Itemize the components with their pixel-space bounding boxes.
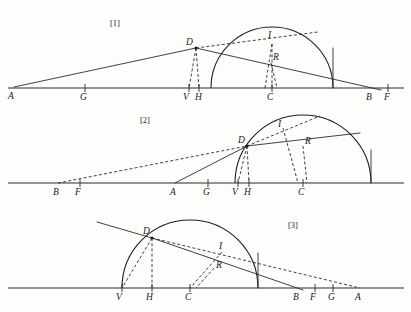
- figure-3-label-C: C: [185, 292, 192, 302]
- figure-1-normal-D-to-V: [189, 48, 196, 88]
- figure-1: AGVHCBFDIR[1]: [7, 18, 404, 102]
- figure-3-label-F: F: [309, 292, 316, 302]
- figure-2-label-I: I: [277, 119, 282, 129]
- figure-3-caption: [3]: [288, 220, 298, 230]
- figure-2-label-F: F: [74, 187, 81, 197]
- figure-3-label-R: R: [215, 260, 222, 270]
- figure-3-label-A: A: [354, 292, 361, 302]
- figure-2: BFAGVHCDIR[2]: [8, 115, 404, 197]
- figure-1-label-R: R: [272, 52, 279, 62]
- figure-1-perp-D-to-H: [196, 48, 199, 88]
- figure-3-refracted-ray-D-B: [152, 238, 303, 290]
- geometry-diagram-canvas: AGVHCBFDIR[1]BFAGVHCDIR[2]VHCBFGADIR[3]: [0, 0, 411, 312]
- figure-2-perp-D-to-H: [247, 146, 249, 183]
- figure-1-label-A: A: [7, 91, 14, 101]
- figure-1-point-D: [194, 46, 197, 49]
- figure-1-label-H: H: [194, 92, 203, 102]
- figure-3-point-D: [150, 236, 153, 239]
- figure-2-label-B: B: [53, 187, 59, 197]
- figure-3-normal-I-to-C: [190, 252, 222, 288]
- figure-2-label-A: A: [169, 187, 176, 197]
- figure-1-incident-ray-A-D: [14, 48, 196, 87]
- figure-2-incident-ray-A-D: [175, 146, 247, 183]
- figure-2-label-V: V: [232, 187, 239, 197]
- figure-2-label-H: H: [243, 187, 252, 197]
- figure-1-chord-D-to-upper-right: [196, 32, 318, 48]
- figure-1-label-B: B: [366, 92, 372, 102]
- figure-sheet: AGVHCBFDIR[1]BFAGVHCDIR[2]VHCBFGADIR[3]: [0, 0, 411, 312]
- figure-2-point-D: [245, 144, 248, 147]
- figure-1-semicircle-arc: [211, 27, 333, 88]
- figure-1-label-D: D: [185, 37, 193, 47]
- figure-1-label-I: I: [267, 30, 272, 40]
- figure-2-normal-I-to-C: [283, 128, 298, 183]
- figure-3-label-B: B: [293, 292, 299, 302]
- figure-1-label-G: G: [80, 92, 87, 102]
- figure-3: VHCBFGADIR[3]: [8, 220, 404, 302]
- figure-3-sine-R-drop: [196, 268, 214, 288]
- figure-3-label-V: V: [116, 292, 123, 302]
- figure-2-label-G: G: [203, 187, 210, 197]
- figure-1-label-F: F: [383, 92, 390, 102]
- figure-3-extension-D-to-A: [152, 238, 360, 288]
- figure-3-label-G: G: [328, 292, 335, 302]
- figure-2-label-D: D: [237, 135, 245, 145]
- figure-2-sine-R-drop: [303, 146, 307, 183]
- figure-1-sine-I-drop: [265, 44, 272, 88]
- figure-2-label-R: R: [304, 136, 311, 146]
- figure-2-extension-B-to-D: [58, 146, 247, 183]
- figure-3-label-D: D: [142, 226, 150, 236]
- figure-2-caption: [2]: [140, 115, 150, 125]
- figure-1-refracted-ray-D-B: [196, 48, 381, 90]
- figure-2-label-C: C: [298, 187, 305, 197]
- figure-3-label-I: I: [218, 241, 223, 251]
- figure-1-caption: [1]: [110, 18, 120, 28]
- figure-3-label-H: H: [145, 292, 154, 302]
- figure-1-label-C: C: [267, 92, 274, 102]
- figure-1-label-V: V: [183, 92, 190, 102]
